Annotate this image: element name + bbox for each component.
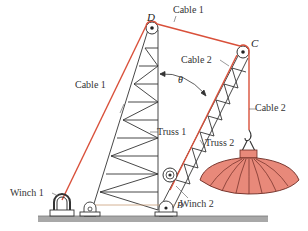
label-cable-2-upper: Cable 2 <box>181 55 212 65</box>
pin-support-left <box>80 202 100 216</box>
winch-2 <box>163 168 177 182</box>
truss-1 <box>92 30 158 210</box>
label-cable-1-top: Cable 1 <box>173 5 204 15</box>
label-theta: θ <box>178 75 183 85</box>
winch-1 <box>50 194 74 216</box>
label-cable-1-left: Cable 1 <box>75 80 106 90</box>
load <box>200 150 299 194</box>
label-cable-2-right: Cable 2 <box>255 103 286 113</box>
label-truss-1: Truss 1 <box>157 127 186 137</box>
theta-arc <box>160 72 206 97</box>
crane-diagram: D C B θ Cable 1 Cable 1 Cable 2 Cable 2 … <box>0 0 308 231</box>
label-winch-2: Winch 2 <box>180 199 214 209</box>
pulley-c <box>237 46 249 58</box>
label-point-c: C <box>251 38 258 49</box>
label-winch-1: Winch 1 <box>10 188 44 198</box>
label-point-d: D <box>147 12 155 23</box>
label-truss-2: Truss 2 <box>205 138 234 148</box>
crane-drawing <box>0 0 308 231</box>
hook <box>242 130 255 151</box>
ground <box>38 216 268 222</box>
